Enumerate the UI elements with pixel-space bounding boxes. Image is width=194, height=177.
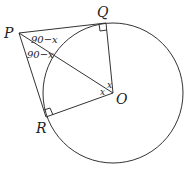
angle-opr-label: 90−x bbox=[27, 49, 54, 60]
angle-qpo-label: 90−x bbox=[31, 34, 58, 45]
label-p: P bbox=[3, 25, 14, 41]
angle-por-label: x bbox=[100, 87, 105, 97]
tangent-pq bbox=[19, 23, 106, 33]
tangent-circle-diagram: P Q R O 90−x 90−x x x bbox=[0, 0, 194, 177]
label-o: O bbox=[116, 91, 128, 107]
label-q: Q bbox=[97, 4, 109, 20]
label-r: R bbox=[35, 120, 47, 136]
tangent-pr bbox=[19, 33, 46, 117]
angle-poq-label: x bbox=[107, 80, 112, 90]
